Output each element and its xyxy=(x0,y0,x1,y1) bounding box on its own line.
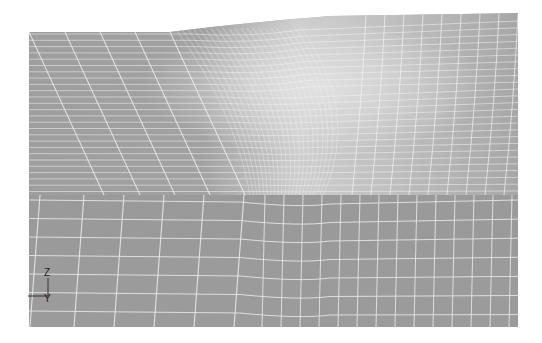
triad-arrows-icon xyxy=(26,268,56,308)
mesh-viewport[interactable] xyxy=(0,0,542,343)
y-axis-label: Y xyxy=(44,294,51,304)
mesh-surface xyxy=(29,10,519,330)
z-axis-label: Z xyxy=(44,268,50,278)
axis-triad: Z Y xyxy=(26,268,56,308)
